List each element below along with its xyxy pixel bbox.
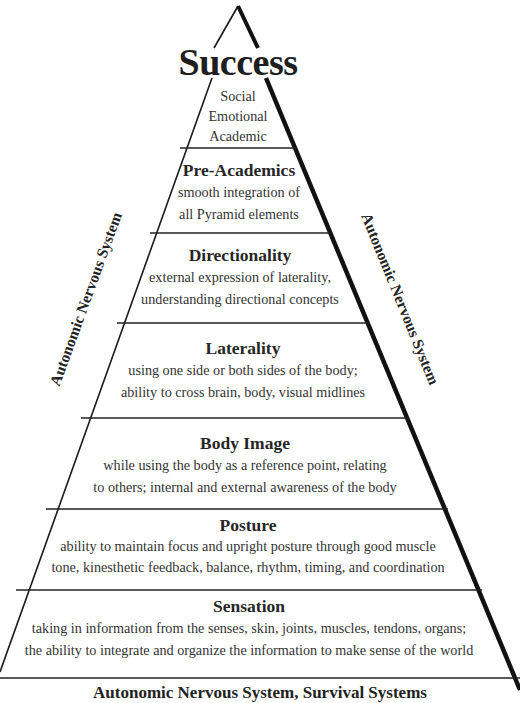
level-sensation: Sensation taking in information from the… bbox=[0, 595, 498, 661]
apex-line-emotional: Emotional bbox=[0, 106, 476, 126]
level-desc-line: ability to maintain focus and upright po… bbox=[0, 536, 496, 557]
apex-section: Social Emotional Academic bbox=[0, 86, 476, 146]
level-body-image: Body Image while using the body as a ref… bbox=[0, 432, 490, 498]
level-posture: Posture ability to maintain focus and up… bbox=[0, 514, 496, 578]
base-label: Autonomic Nervous System, Survival Syste… bbox=[0, 683, 520, 703]
level-title: Posture bbox=[0, 514, 496, 536]
level-desc-line: external expression of laterality, bbox=[0, 266, 480, 288]
level-desc-line: ability to cross brain, body, visual mid… bbox=[0, 381, 486, 403]
apex-line-academic: Academic bbox=[0, 126, 476, 146]
level-desc-line: taking in information from the senses, s… bbox=[0, 617, 498, 639]
level-pre-academics: Pre-Academics smooth integration of all … bbox=[0, 159, 478, 225]
level-title: Directionality bbox=[0, 244, 480, 266]
level-desc-line: using one side or both sides of the body… bbox=[0, 359, 486, 381]
pyramid-title: Success bbox=[0, 40, 476, 84]
level-desc-line: to others; internal and external awarene… bbox=[0, 476, 490, 498]
level-title: Pre-Academics bbox=[0, 159, 478, 181]
level-title: Body Image bbox=[0, 432, 490, 454]
apex-line-social: Social bbox=[0, 86, 476, 106]
level-desc-line: all Pyramid elements bbox=[0, 203, 478, 225]
level-title: Sensation bbox=[0, 595, 498, 617]
level-desc-line: tone, kinesthetic feedback, balance, rhy… bbox=[0, 557, 496, 578]
level-desc-line: the ability to integrate and organize th… bbox=[0, 639, 498, 661]
level-desc-line: while using the body as a reference poin… bbox=[0, 454, 490, 476]
level-desc-line: smooth integration of bbox=[0, 181, 478, 203]
